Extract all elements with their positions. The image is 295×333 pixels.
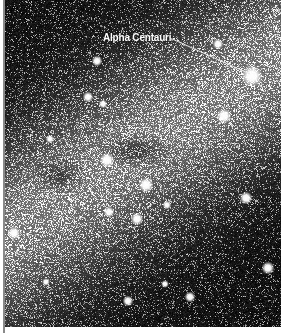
star-label-alpha-centauri: Alpha Centauri	[103, 32, 171, 43]
pointer-line	[5, 0, 281, 327]
star-field-photo: Alpha Centauri	[5, 0, 281, 327]
